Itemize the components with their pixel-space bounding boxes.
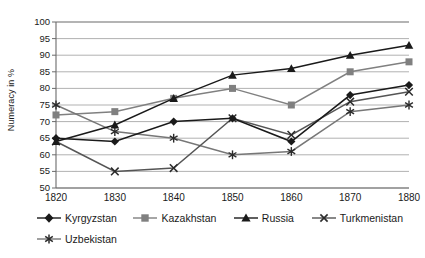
legend-label-russia: Russia: [262, 212, 294, 224]
data-point-diamond: [170, 118, 178, 126]
x-marker-icon: [311, 211, 337, 225]
series-line: [56, 85, 409, 141]
legend-label-kazakhstan: Kazakhstan: [161, 212, 216, 224]
x-tick-label: 1850: [209, 192, 257, 203]
data-point-triangle: [405, 41, 414, 49]
legend-row-2: Uzbekistan: [36, 228, 416, 249]
data-point-square: [288, 102, 295, 109]
data-point-square: [347, 68, 354, 75]
legend-item-uzbekistan[interactable]: Uzbekistan: [36, 232, 144, 246]
y-tick-label: 90: [20, 49, 50, 60]
legend-label-kyrgyzstan: Kyrgyzstan: [65, 212, 117, 224]
data-point-square: [406, 58, 413, 65]
data-point-square: [53, 111, 60, 118]
y-tick-label: 100: [20, 16, 50, 27]
x-tick-label: 1880: [385, 192, 425, 203]
y-tick-label: 65: [20, 132, 50, 143]
y-tick-label: 80: [20, 82, 50, 93]
y-tick-label: 85: [20, 66, 50, 77]
asterisk-marker-icon: [36, 232, 62, 246]
legend-item-russia[interactable]: Russia: [233, 211, 298, 225]
chart-legend: Kyrgyzstan Kazakhstan Ru: [36, 207, 416, 249]
triangle-marker-icon: [233, 211, 259, 225]
legend-label-turkmenistan: Turkmenistan: [340, 212, 403, 224]
legend-item-kazakhstan[interactable]: Kazakhstan: [132, 211, 219, 225]
diamond-marker-icon: [36, 211, 62, 225]
series-uzbekistan: [52, 101, 413, 160]
y-tick-label: 55: [20, 165, 50, 176]
x-tick-label: 1820: [32, 192, 80, 203]
x-tick-label: 1840: [150, 192, 198, 203]
data-point-square: [111, 108, 118, 115]
legend-row-1: Kyrgyzstan Kazakhstan Ru: [36, 207, 416, 228]
series-turkmenistan: [52, 88, 413, 175]
x-tick-label: 1870: [326, 192, 374, 203]
series-line: [56, 92, 409, 172]
y-tick-label: 75: [20, 99, 50, 110]
x-tick-label: 1860: [267, 192, 315, 203]
legend-item-kyrgyzstan[interactable]: Kyrgyzstan: [36, 211, 119, 225]
legend-item-turkmenistan[interactable]: Turkmenistan: [311, 211, 403, 225]
y-tick-label: 60: [20, 149, 50, 160]
legend-label-uzbekistan: Uzbekistan: [65, 233, 117, 245]
square-marker-icon: [132, 211, 158, 225]
x-tick-label: 1830: [91, 192, 139, 203]
y-tick-label: 70: [20, 116, 50, 127]
data-point-square: [229, 85, 236, 92]
gridlines: [56, 22, 409, 188]
y-tick-label: 95: [20, 33, 50, 44]
